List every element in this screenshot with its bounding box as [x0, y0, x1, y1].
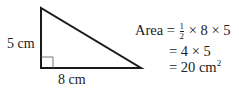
- right-triangle: [41, 8, 141, 68]
- right-angle-marker: [41, 57, 53, 68]
- fraction-denominator: 2: [180, 32, 185, 41]
- fraction-one-half: 1 2: [180, 22, 185, 41]
- product-term: × 8 × 5: [189, 22, 231, 38]
- base-label: 8 cm: [58, 73, 86, 87]
- result-value: = 20 cm: [169, 59, 217, 75]
- equation-line-3: = 20 cm2: [169, 60, 221, 75]
- equals-sign: =: [167, 22, 175, 38]
- equation-line-2: = 4 × 5: [169, 44, 211, 59]
- equation-line-1: Area = 1 2 × 8 × 5: [135, 22, 230, 41]
- unit-exponent: 2: [217, 58, 222, 68]
- area-term: Area: [135, 22, 163, 38]
- height-label: 5 cm: [7, 37, 35, 51]
